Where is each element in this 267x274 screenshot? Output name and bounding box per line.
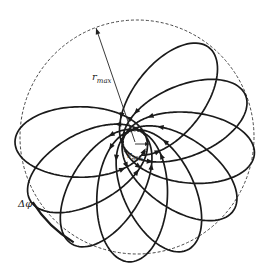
arrowhead-icon: [160, 153, 165, 160]
orbit-curve: [15, 43, 254, 262]
r-max-arrowhead-icon: [96, 28, 101, 35]
arrowhead-icon: [108, 131, 115, 136]
arrowhead-icon: [147, 113, 154, 118]
rosette-orbit-diagram: rmax rmin Δφ: [0, 0, 267, 274]
r-min-label: rmin: [127, 150, 143, 162]
arrowhead-icon: [114, 155, 119, 162]
delta-phi-label: Δφ: [17, 198, 32, 209]
orbit-path: [15, 43, 254, 262]
r-max-label: rmax: [92, 71, 112, 85]
orbit-direction-arrows: [108, 108, 169, 176]
arrowhead-icon: [157, 125, 164, 130]
arrowhead-icon: [119, 168, 126, 173]
arrowhead-icon: [115, 122, 121, 127]
